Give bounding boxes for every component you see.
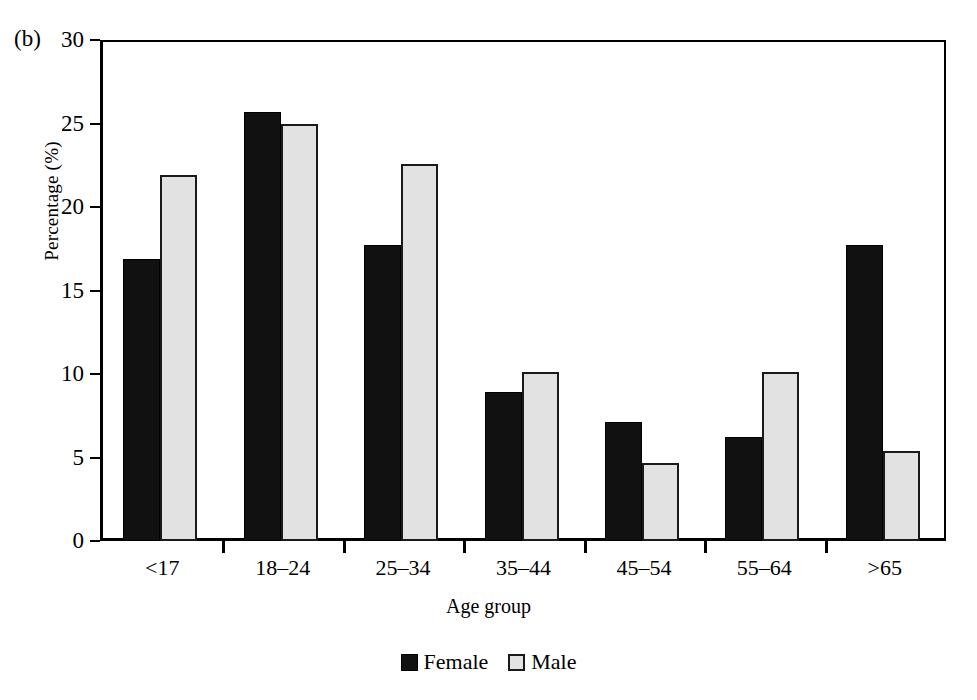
x-axis-tick-label: 45–54	[574, 557, 714, 579]
bar-male-2	[401, 164, 438, 541]
y-axis-tick-label: 0	[10, 529, 84, 552]
bar-male-5	[762, 372, 799, 541]
x-axis-tick-label: <17	[92, 557, 232, 579]
x-axis-tick	[704, 541, 707, 553]
x-axis-tick	[463, 541, 466, 553]
legend-item-male: Male	[508, 649, 576, 675]
x-axis-tick-label: >65	[815, 557, 955, 579]
x-axis-tick-label: 55–64	[694, 557, 834, 579]
bar-female-0	[123, 259, 160, 541]
legend-swatch-male-icon	[508, 654, 525, 671]
y-axis-tick	[90, 123, 100, 125]
y-axis-tick	[90, 39, 100, 41]
x-axis-tick-label: 35–44	[454, 557, 594, 579]
y-axis-tick	[90, 373, 100, 375]
y-axis-tick	[90, 290, 100, 292]
bar-female-5	[725, 437, 762, 541]
y-axis-tick-label: 5	[10, 446, 84, 469]
plot-area	[102, 41, 945, 541]
legend-label: Female	[424, 649, 489, 675]
y-axis-tick-label: 20	[10, 195, 84, 218]
bar-male-0	[160, 175, 197, 541]
bar-male-3	[522, 372, 559, 541]
legend-item-female: Female	[401, 649, 489, 675]
bar-male-1	[281, 124, 318, 542]
x-axis-tick-label: 18–24	[213, 557, 353, 579]
x-axis-tick	[584, 541, 587, 553]
y-axis-tick-label: 30	[10, 28, 84, 51]
bar-female-4	[605, 422, 642, 541]
bar-female-6	[846, 245, 883, 541]
x-axis-tick	[343, 541, 346, 553]
bar-chart-figure: (b) Percentage (%) 051015202530 <1718–24…	[0, 0, 977, 700]
x-axis-title: Age group	[0, 595, 977, 618]
y-axis-tick	[90, 457, 100, 459]
bar-female-1	[244, 112, 281, 541]
y-axis-tick	[90, 540, 100, 542]
chart-legend: FemaleMale	[0, 649, 977, 675]
bar-male-4	[642, 463, 679, 541]
x-axis-tick	[222, 541, 225, 553]
legend-swatch-female-icon	[401, 654, 418, 671]
y-axis-tick-label: 25	[10, 112, 84, 135]
bar-male-6	[883, 451, 920, 541]
bar-female-3	[485, 392, 522, 541]
bar-female-2	[364, 245, 401, 541]
legend-label: Male	[531, 649, 576, 675]
y-axis-tick	[90, 206, 100, 208]
y-axis-tick-label: 15	[10, 279, 84, 302]
x-axis-tick-label: 25–34	[333, 557, 473, 579]
x-axis-tick	[825, 541, 828, 553]
y-axis-tick-label: 10	[10, 362, 84, 385]
